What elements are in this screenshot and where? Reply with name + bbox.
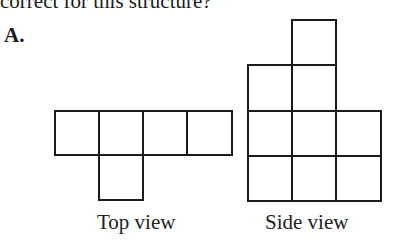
side-view-cell [247,155,293,202]
side-view-cell [291,64,337,112]
side-view-cell [291,110,337,157]
side-view-cell [335,155,382,202]
top-view-cell [142,110,188,156]
side-view-cell [247,110,293,157]
top-view-cell [186,110,233,156]
side-view-caption: Side view [265,212,348,233]
question-text: correct for this structure? [0,0,212,12]
top-view-cell [98,154,144,201]
side-view-cell [335,110,382,157]
side-view-cell [291,155,337,202]
top-view-cell [98,110,144,156]
side-view-cell [291,19,337,66]
top-view-caption: Top view [97,212,175,233]
top-view-cell [54,110,100,156]
option-label: A. [4,25,24,46]
side-view-cell [247,64,293,112]
